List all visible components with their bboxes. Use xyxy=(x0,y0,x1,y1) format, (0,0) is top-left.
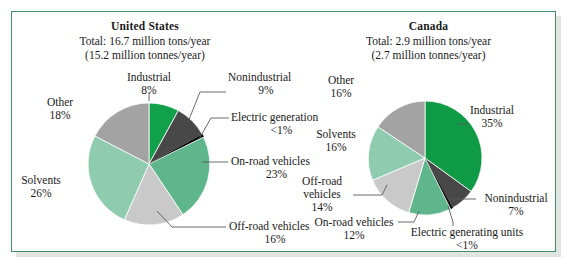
canada-label-nonindustrial: Nonindustrial 7% xyxy=(476,192,556,218)
canada-label-industrial: Industrial 35% xyxy=(460,104,524,130)
canada-label-other: Other 16% xyxy=(306,74,376,100)
panel-canada: Canada Total: 2.9 million tons/year (2.7… xyxy=(290,0,567,269)
us-label-other-pct: 18% xyxy=(30,109,90,122)
panel-united-states: United States Total: 16.7 million tons/y… xyxy=(0,0,290,269)
us-label-industrial-pct: 8% xyxy=(99,84,199,97)
us-leader-electric xyxy=(199,118,229,139)
us-label-nonindustrial-name: Nonindustrial xyxy=(228,71,291,83)
figure-root: United States Total: 16.7 million tons/y… xyxy=(0,0,567,269)
canada-label-solvents: Solvents 16% xyxy=(298,128,374,154)
canada-label-off-road-vehicles-line-1: Off-road xyxy=(302,175,342,187)
canada-label-electric-generating-units-pct: <1% xyxy=(402,239,532,252)
canada-label-off-road-vehicles: Off-road vehicles 14% xyxy=(292,175,352,214)
us-label-solvents-name: Solvents xyxy=(21,174,61,186)
canada-label-electric-generating-units: Electric generating units <1% xyxy=(402,226,532,252)
canada-label-on-road-vehicles: On-road vehicles 12% xyxy=(308,216,400,242)
canada-label-other-name: Other xyxy=(328,74,354,86)
canada-label-industrial-pct: 35% xyxy=(460,117,524,130)
canada-label-other-pct: 16% xyxy=(306,87,376,100)
us-label-industrial-name: Industrial xyxy=(127,71,171,83)
us-label-solvents-pct: 26% xyxy=(8,187,74,200)
canada-label-off-road-vehicles-pct: 14% xyxy=(292,201,352,214)
canada-label-off-road-vehicles-line-2: vehicles xyxy=(292,188,352,201)
canada-label-electric-generating-units-name: Electric generating units xyxy=(411,226,523,238)
canada-label-nonindustrial-pct: 7% xyxy=(476,205,556,218)
canada-label-solvents-name: Solvents xyxy=(316,128,356,140)
canada-label-industrial-name: Industrial xyxy=(470,104,514,116)
us-label-solvents: Solvents 26% xyxy=(8,174,74,200)
us-label-other-name: Other xyxy=(47,96,73,108)
canada-label-nonindustrial-name: Nonindustrial xyxy=(484,192,547,204)
canada-label-on-road-vehicles-name: On-road vehicles xyxy=(315,216,394,228)
us-label-industrial: Industrial 8% xyxy=(99,71,199,97)
us-label-other: Other 18% xyxy=(30,96,90,122)
canada-label-solvents-pct: 16% xyxy=(298,141,374,154)
canada-label-on-road-vehicles-pct: 12% xyxy=(308,229,400,242)
